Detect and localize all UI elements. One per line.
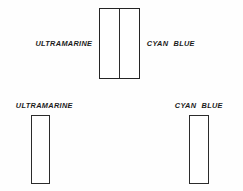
joined-swatch-pair	[99, 8, 140, 79]
top-cyan-blue-label: CYAN BLUE	[147, 39, 211, 49]
color-swatch-figure: ULTRAMARINE CYAN BLUE ULTRAMARINE CYAN B…	[0, 0, 243, 191]
top-ultramarine-label: ULTRAMARINE	[32, 39, 93, 49]
cyan-blue-swatch	[189, 115, 209, 184]
bottom-ultramarine-label: ULTRAMARINE	[16, 101, 80, 111]
ultramarine-swatch	[31, 115, 50, 184]
swatch-pair-divider	[119, 9, 120, 78]
bottom-cyan-blue-label: CYAN BLUE	[175, 101, 239, 111]
